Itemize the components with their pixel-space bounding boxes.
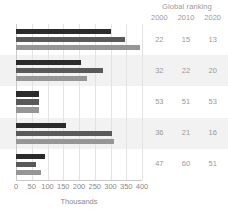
bar-2010	[16, 99, 39, 104]
chart-figure: Global ranking 2000 2010 2020 2215133222…	[0, 0, 228, 214]
bar-2020	[16, 107, 39, 112]
ranking-value-2020: 16	[199, 128, 226, 137]
x-tick-label: 400	[136, 182, 149, 191]
x-tick-label: 0	[14, 182, 18, 191]
bar-fill	[16, 139, 114, 144]
bar-fill	[16, 154, 45, 159]
bar-2020	[16, 139, 114, 144]
ranking-value-2010: 15	[173, 35, 200, 44]
ranking-value-2010: 51	[173, 97, 200, 106]
bar-fill	[16, 99, 39, 104]
bar-2000	[16, 91, 39, 96]
bar-2000	[16, 154, 45, 159]
x-tick-label: 350	[120, 182, 133, 191]
ranking-value-2000: 22	[146, 35, 173, 44]
bar-fill	[16, 107, 39, 112]
bar-fill	[16, 68, 103, 73]
ranking-row: 362116	[146, 128, 226, 137]
bar-2020	[16, 45, 140, 50]
bar-fill	[16, 170, 41, 175]
ranking-value-2010: 22	[173, 66, 200, 75]
bar-2000	[16, 29, 111, 34]
ranking-year-2000: 2000	[146, 13, 173, 22]
ranking-table-title: Global ranking	[148, 2, 226, 11]
x-tick-label: 100	[41, 182, 54, 191]
bar-fill	[16, 29, 111, 34]
x-axis-label: Thousands	[16, 197, 142, 206]
ranking-row: 476051	[146, 159, 226, 168]
bar-group: 322220	[0, 55, 228, 86]
bar-group: 362116	[0, 118, 228, 149]
bar-fill	[16, 162, 36, 167]
x-axis-tick-labels: 050100150200250300350400	[0, 182, 228, 194]
ranking-year-2020: 2020	[199, 13, 226, 22]
bar-fill	[16, 131, 112, 136]
x-tick-label: 50	[28, 182, 36, 191]
ranking-row: 535153	[146, 97, 226, 106]
ranking-value-2020: 13	[199, 35, 226, 44]
ranking-value-2000: 53	[146, 97, 173, 106]
ranking-value-2000: 36	[146, 128, 173, 137]
bar-fill	[16, 76, 87, 81]
bar-fill	[16, 60, 81, 65]
ranking-value-2000: 32	[146, 66, 173, 75]
ranking-value-2010: 21	[173, 128, 200, 137]
ranking-value-2000: 47	[146, 159, 173, 168]
ranking-row: 322220	[146, 66, 226, 75]
bar-fill	[16, 91, 39, 96]
bar-2010	[16, 131, 112, 136]
bar-group: 221513	[0, 24, 228, 55]
bar-group: 476051	[0, 149, 228, 180]
bar-2000	[16, 123, 66, 128]
x-axis-line	[16, 180, 142, 181]
bar-2010	[16, 162, 36, 167]
ranking-value-2020: 20	[199, 66, 226, 75]
bar-fill	[16, 123, 66, 128]
ranking-row: 221513	[146, 35, 226, 44]
bar-fill	[16, 37, 125, 42]
ranking-value-2020: 51	[199, 159, 226, 168]
ranking-year-2010: 2010	[173, 13, 200, 22]
plot-area: 221513322220535153362116476051	[0, 24, 228, 180]
ranking-value-2020: 53	[199, 97, 226, 106]
bar-2010	[16, 37, 125, 42]
ranking-year-header: 2000 2010 2020	[146, 13, 226, 22]
x-tick-label: 150	[57, 182, 70, 191]
ranking-value-2010: 60	[173, 159, 200, 168]
x-tick-label: 200	[73, 182, 86, 191]
bar-2020	[16, 76, 87, 81]
bar-2010	[16, 68, 103, 73]
x-tick-label: 250	[88, 182, 101, 191]
x-tick-label: 300	[104, 182, 117, 191]
bar-fill	[16, 45, 140, 50]
bar-2000	[16, 60, 81, 65]
bar-2020	[16, 170, 41, 175]
bar-group: 535153	[0, 86, 228, 117]
